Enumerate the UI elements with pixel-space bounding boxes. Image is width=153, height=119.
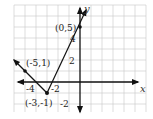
y-tick-neg2: -2 bbox=[60, 99, 69, 109]
label-point-0-5: (0,5) bbox=[55, 23, 76, 33]
x-tick-neg2: -2 bbox=[51, 84, 60, 94]
point-0-5 bbox=[78, 25, 82, 29]
label-point-neg5-1: (-5,1) bbox=[26, 58, 50, 68]
y-tick-4: 4 bbox=[70, 34, 76, 44]
coordinate-graph: (0,5) (-5,1) (-3,-1) -4 -2 2 4 -2 x y bbox=[0, 0, 153, 119]
x-tick-neg4: -4 bbox=[26, 84, 35, 94]
y-axis-label: y bbox=[83, 3, 90, 14]
point-vertex bbox=[45, 91, 49, 95]
point-neg5-1 bbox=[23, 69, 27, 73]
label-vertex: (-3,-1) bbox=[25, 98, 52, 108]
x-axis-label: x bbox=[140, 83, 146, 94]
y-tick-2: 2 bbox=[69, 56, 75, 66]
